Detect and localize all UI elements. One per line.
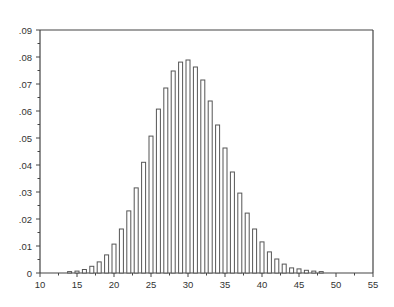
histogram-bar xyxy=(312,271,316,273)
histogram-bar xyxy=(260,242,264,273)
x-tick-label: 35 xyxy=(220,279,231,290)
histogram-bar xyxy=(297,269,301,273)
x-tick-label: 50 xyxy=(331,279,342,290)
histogram-bar xyxy=(164,88,168,273)
y-tick-label: .06 xyxy=(19,106,32,117)
y-tick-label: .08 xyxy=(19,52,32,63)
histogram-chart: 0.01.02.03.04.05.06.07.08.09 10152025303… xyxy=(0,0,394,307)
y-tick-label: .07 xyxy=(19,79,32,90)
x-tick-label: 25 xyxy=(146,279,157,290)
histogram-bar xyxy=(216,125,220,273)
bars xyxy=(68,60,324,273)
histogram-bar xyxy=(275,259,279,273)
histogram-bar xyxy=(97,262,101,273)
x-tick-label: 10 xyxy=(35,279,46,290)
histogram-bar xyxy=(127,211,131,273)
histogram-bar xyxy=(186,60,190,273)
histogram-bar xyxy=(82,270,86,274)
histogram-bar xyxy=(319,272,323,273)
x-tick-label: 45 xyxy=(294,279,305,290)
histogram-bar xyxy=(208,101,212,273)
histogram-bar xyxy=(245,213,249,273)
y-tick-label: 0 xyxy=(27,268,32,279)
histogram-bar xyxy=(68,272,72,273)
histogram-bar xyxy=(253,229,257,273)
y-axis: 0.01.02.03.04.05.06.07.08.09 xyxy=(19,25,40,279)
histogram-bar xyxy=(90,266,94,273)
histogram-bar xyxy=(75,271,79,273)
x-tick-label: 20 xyxy=(109,279,120,290)
x-tick-label: 15 xyxy=(72,279,83,290)
plot-frame xyxy=(40,30,373,273)
y-tick-label: .01 xyxy=(19,241,32,252)
histogram-bar xyxy=(230,172,234,273)
histogram-bar xyxy=(112,244,116,273)
histogram-bar xyxy=(149,136,153,273)
histogram-bar xyxy=(238,193,242,273)
histogram-bar xyxy=(193,67,197,273)
histogram-bar xyxy=(304,270,308,273)
y-tick-label: .04 xyxy=(19,160,32,171)
x-axis: 10152025303540455055 xyxy=(35,273,379,290)
histogram-bar xyxy=(179,62,183,273)
histogram-bar xyxy=(223,148,227,273)
histogram-bar xyxy=(134,188,138,273)
histogram-bar xyxy=(171,71,175,273)
y-tick-label: .02 xyxy=(19,214,32,225)
x-tick-label: 30 xyxy=(183,279,194,290)
histogram-bar xyxy=(282,264,286,273)
histogram-bar xyxy=(142,162,146,273)
histogram-bar xyxy=(156,109,160,273)
histogram-bar xyxy=(105,255,109,273)
x-tick-label: 55 xyxy=(368,279,379,290)
histogram-bar xyxy=(201,80,205,273)
x-tick-label: 40 xyxy=(257,279,268,290)
y-tick-label: .03 xyxy=(19,187,32,198)
histogram-bar xyxy=(119,229,123,273)
y-tick-label: .05 xyxy=(19,133,32,144)
histogram-bar xyxy=(290,268,294,273)
histogram-bar xyxy=(267,252,271,273)
y-tick-label: .09 xyxy=(19,25,32,36)
